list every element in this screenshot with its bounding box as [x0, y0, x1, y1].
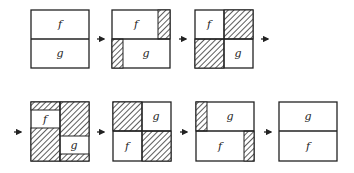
frame-6: g f — [196, 102, 254, 161]
label-g: g — [152, 110, 159, 123]
hatched-block — [244, 131, 254, 161]
frame-3: f g — [195, 10, 253, 68]
frame-7: g f — [279, 102, 337, 161]
label-g: g — [304, 110, 311, 123]
hatched-block — [31, 102, 60, 110]
frame-1: f g — [31, 10, 89, 68]
hatched-block — [196, 102, 207, 131]
hatched-block — [224, 10, 253, 39]
frame-5: g f — [113, 102, 171, 161]
swap-diagram: f g f g f g f g — [0, 0, 354, 173]
hatched-block — [60, 154, 89, 161]
frame-4: f g — [31, 102, 89, 161]
hatched-block — [60, 102, 89, 136]
hatched-block — [31, 128, 60, 161]
frame-2: f g — [112, 10, 170, 68]
hatched-block — [113, 102, 142, 131]
label-g: g — [226, 110, 233, 123]
label-g: g — [234, 47, 241, 60]
label-g: g — [56, 47, 63, 60]
hatched-block — [142, 131, 171, 161]
hatched-block — [112, 39, 123, 68]
label-g: g — [70, 139, 77, 152]
label-g: g — [142, 47, 149, 60]
hatched-block — [195, 39, 224, 68]
hatched-block — [158, 10, 170, 39]
